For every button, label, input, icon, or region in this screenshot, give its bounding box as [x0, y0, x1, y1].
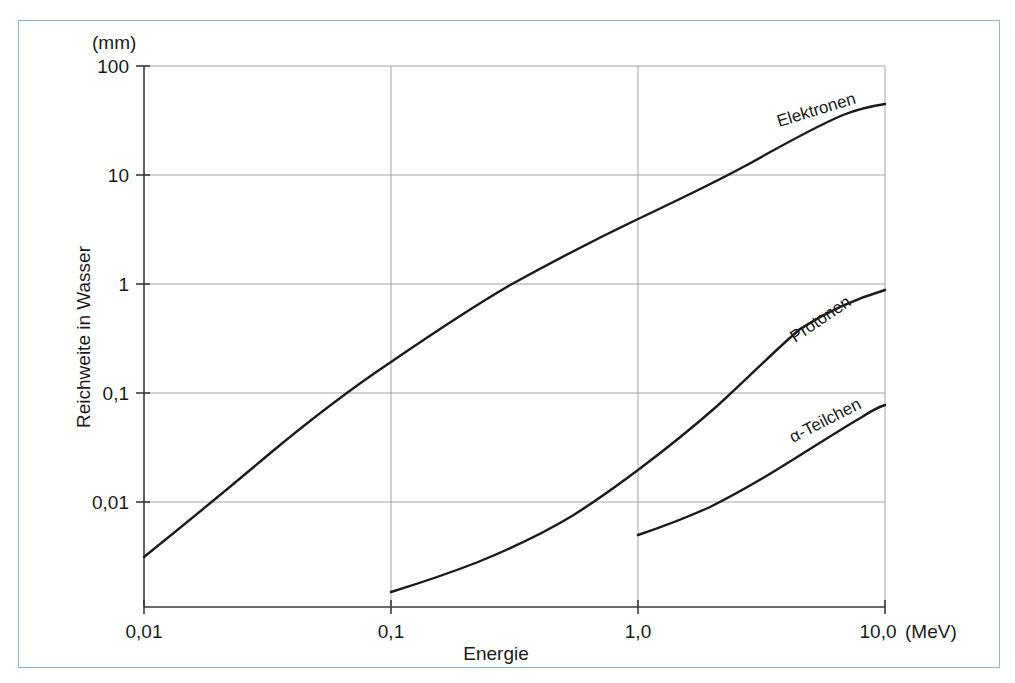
series-label-elektronen: Elektronen: [775, 89, 858, 131]
x-tick-label-0-1: 0,1: [378, 621, 404, 642]
figure-container: (mm) 100 10 1 0,1 0: [0, 0, 1015, 683]
x-axis-title: Energie: [463, 643, 529, 664]
range-vs-energy-chart: (mm) 100 10 1 0,1 0: [0, 0, 1015, 683]
x-tick-label-0-01: 0,01: [126, 621, 163, 642]
y-tick-label-100: 100: [97, 56, 129, 77]
y-axis-title: Reichweite in Wasser: [73, 245, 94, 428]
series-label-protonen: Protonen: [787, 292, 855, 346]
x-tick-label-1-0: 1,0: [625, 621, 651, 642]
x-tick-label-10-0: 10,0: [860, 621, 897, 642]
y-tick-label-0-1: 0,1: [103, 383, 129, 404]
y-axis-unit-label: (mm): [92, 32, 136, 53]
y-tick-label-0-01: 0,01: [92, 492, 129, 513]
y-axis-ticks: [136, 66, 150, 502]
x-axis-unit-label: (MeV): [905, 621, 957, 642]
horizontal-gridlines: [144, 66, 885, 502]
curve-alpha-teilchen: [638, 405, 885, 535]
curve-elektronen: [144, 104, 885, 557]
y-tick-label-1: 1: [118, 274, 129, 295]
y-tick-label-10: 10: [108, 165, 129, 186]
